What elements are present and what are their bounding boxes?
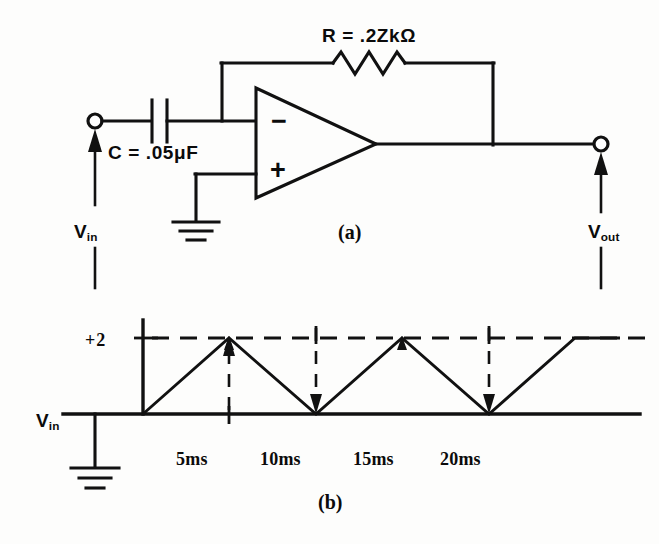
figure-root: R = .2ZkΩ C = .05μF Vin Vout (a) (b) +2 …: [0, 0, 659, 544]
opamp-inverting-input-symbol: −: [271, 108, 287, 135]
vout-terminal-label-subscript: out: [601, 230, 620, 243]
vin-arrow-head: [88, 129, 102, 152]
waveform-y-axis-label-subscript: in: [49, 419, 60, 432]
vout-arrow-head: [594, 152, 608, 175]
triangular-waveform-trace: [143, 338, 620, 414]
vin-terminal-label-main: V: [74, 221, 87, 242]
panel-a-circuit: [88, 52, 608, 288]
capacitor-value-label: C = .05μF: [108, 143, 198, 162]
vin-terminal-label-subscript: in: [87, 230, 98, 243]
input-terminal-node: [88, 114, 102, 128]
caption-panel-b: (b): [318, 492, 342, 512]
x-tick-label-15ms: 15ms: [353, 450, 394, 468]
opamp-noninverting-input-symbol: +: [270, 157, 286, 184]
figure-vector-layer: [0, 0, 659, 544]
x-tick-label-5ms: 5ms: [176, 450, 208, 468]
resistor-value-label: R = .2ZkΩ: [322, 26, 416, 45]
output-terminal-node: [594, 137, 608, 151]
x-tick-label-20ms: 20ms: [440, 450, 481, 468]
x-tick-label-10ms: 10ms: [260, 450, 301, 468]
vout-terminal-label-main: V: [588, 221, 601, 242]
resistor-zigzag: [333, 52, 405, 74]
caption-panel-a: (a): [338, 222, 361, 242]
waveform-y-axis-label: Vin: [36, 411, 60, 430]
waveform-y-axis-label-main: V: [36, 410, 49, 431]
vin-terminal-label: Vin: [74, 222, 98, 241]
amplitude-axis-label: +2: [85, 331, 106, 349]
vout-terminal-label: Vout: [588, 222, 620, 241]
